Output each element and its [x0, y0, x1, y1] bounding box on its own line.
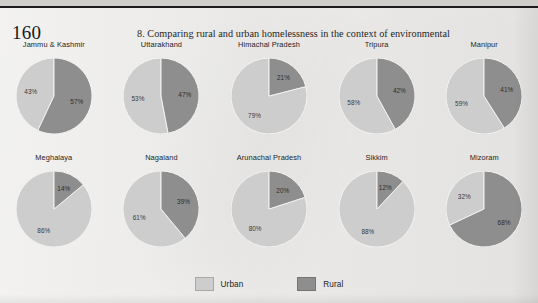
pie-chart: 57%43%	[16, 58, 92, 134]
pie-chart-svg	[231, 58, 307, 134]
pie-chart: 68%32%	[446, 171, 522, 247]
pie-label-urban: 80%	[249, 225, 262, 232]
pie-chart-svg	[231, 171, 307, 247]
legend-swatch-rural	[297, 277, 316, 291]
pie-label-rural: 57%	[70, 98, 83, 105]
pie-chart-cell: Uttarakhand47%53%	[108, 40, 216, 155]
pie-chart-svg	[339, 171, 415, 247]
pie-chart-cell: Tripura42%58%	[323, 40, 431, 155]
pie-chart: 21%79%	[231, 58, 307, 134]
pie-label-urban: 86%	[37, 227, 50, 234]
pie-label-rural: 20%	[276, 186, 289, 193]
pie-chart: 39%61%	[123, 171, 199, 247]
pie-chart: 14%86%	[16, 171, 92, 247]
pie-chart: 47%53%	[123, 58, 199, 134]
pie-label-rural: 12%	[379, 184, 392, 191]
legend-swatch-urban	[195, 277, 214, 291]
running-title: 8. Comparing rural and urban homelessnes…	[137, 28, 450, 40]
pie-label-rural: 47%	[178, 90, 191, 97]
pie-chart: 41%59%	[446, 58, 522, 134]
pie-chart-title: Tripura	[323, 40, 431, 49]
running-head: 160 8. Comparing rural and urban homeles…	[0, 12, 538, 34]
pie-label-rural: 68%	[498, 218, 511, 225]
pie-chart-title: Mizoram	[430, 153, 538, 162]
pie-chart-cell: Mizoram68%32%	[430, 153, 538, 268]
chart-legend: Urban Rural	[0, 274, 538, 294]
pie-chart-title: Manipur	[430, 40, 538, 49]
pie-chart-svg	[123, 171, 199, 247]
pie-chart: 42%58%	[339, 58, 415, 134]
pie-chart-cell: Himachal Pradesh21%79%	[215, 40, 323, 155]
pie-label-rural: 39%	[177, 198, 190, 205]
chart-row-1: Jammu & Kashmir57%43%Uttarakhand47%53%Hi…	[0, 40, 538, 155]
pie-chart-svg	[16, 58, 92, 134]
pie-chart-title: Nagaland	[108, 153, 216, 162]
pie-label-rural: 14%	[57, 184, 70, 191]
pie-chart: 20%80%	[231, 171, 307, 247]
pie-label-urban: 61%	[133, 213, 146, 220]
pie-chart-title: Meghalaya	[0, 153, 108, 162]
pie-chart: 12%88%	[339, 171, 415, 247]
chart-row-2: Meghalaya14%86%Nagaland39%61%Arunachal P…	[0, 153, 538, 268]
pie-label-urban: 59%	[455, 99, 468, 106]
scanned-page: 160 8. Comparing rural and urban homeles…	[0, 0, 538, 303]
pie-chart-svg	[16, 171, 92, 247]
page-bottom-shadow	[0, 294, 538, 303]
legend-label-urban: Urban	[221, 280, 244, 289]
pie-label-urban: 32%	[458, 193, 471, 200]
pie-chart-title: Jammu & Kashmir	[0, 40, 108, 49]
pie-chart-svg	[446, 58, 522, 134]
pie-chart-title: Arunachal Pradesh	[215, 153, 323, 162]
pie-chart-title: Sikkim	[323, 153, 431, 162]
pie-label-urban: 43%	[24, 87, 37, 94]
pie-chart-cell: Nagaland39%61%	[108, 153, 216, 268]
pie-chart-grid: Jammu & Kashmir57%43%Uttarakhand47%53%Hi…	[0, 40, 538, 270]
pie-label-rural: 42%	[393, 87, 406, 94]
pie-chart-cell: Jammu & Kashmir57%43%	[0, 40, 108, 155]
pie-label-rural: 41%	[500, 86, 513, 93]
pie-label-urban: 58%	[347, 98, 360, 105]
legend-label-rural: Rural	[323, 280, 343, 289]
pie-chart-title: Uttarakhand	[108, 40, 216, 49]
pie-chart-cell: Arunachal Pradesh20%80%	[215, 153, 323, 268]
pie-chart-cell: Manipur41%59%	[430, 40, 538, 155]
legend-item-rural: Rural	[297, 277, 343, 291]
pie-label-rural: 21%	[277, 74, 290, 81]
pie-chart-cell: Meghalaya14%86%	[0, 153, 108, 268]
pie-label-urban: 53%	[131, 95, 144, 102]
legend-item-urban: Urban	[195, 277, 244, 291]
pie-chart-svg	[446, 171, 522, 247]
pie-label-urban: 88%	[361, 227, 374, 234]
pie-label-urban: 79%	[248, 111, 261, 118]
pie-chart-cell: Sikkim12%88%	[323, 153, 431, 268]
pie-chart-svg	[339, 58, 415, 134]
pie-chart-title: Himachal Pradesh	[215, 40, 323, 49]
